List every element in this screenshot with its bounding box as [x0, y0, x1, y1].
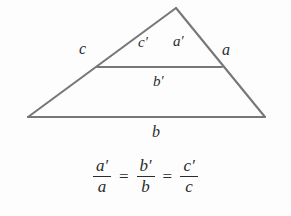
numerator-base: c	[184, 156, 192, 175]
label-side-c-prime: c′	[138, 35, 148, 50]
label-side-b: b	[152, 124, 160, 140]
similar-triangles-figure: c a b c′ a′ b′ a′ a = b′ b = c′ c	[0, 0, 291, 216]
triangle-left-side	[28, 8, 176, 117]
proportionality-equation: a′ a = b′ b = c′ c	[0, 157, 291, 196]
fraction-a-prime-over-a: a′ a	[93, 157, 111, 196]
equals-sign-2: =	[162, 167, 174, 187]
fraction-b-prime-over-b: b′ b	[137, 157, 155, 196]
fraction-numerator: b′	[137, 157, 155, 176]
label-side-b-prime: b′	[153, 74, 164, 89]
fraction-numerator: a′	[93, 157, 111, 176]
numerator-base: b	[140, 156, 149, 175]
fraction-denominator: a	[95, 177, 110, 196]
label-b-prime-base: b	[153, 73, 161, 89]
label-side-a: a	[222, 42, 230, 58]
prime-mark-b: ′	[161, 73, 164, 89]
prime-mark-c: ′	[145, 34, 148, 50]
numerator-prime-mark: ′	[104, 157, 108, 174]
label-a-prime-base: a	[173, 33, 181, 49]
label-side-a-prime: a′	[173, 34, 184, 49]
triangle-right-side	[176, 8, 265, 117]
label-c-prime-base: c	[138, 34, 145, 50]
equals-sign-1: =	[118, 167, 130, 187]
numerator-prime-mark: ′	[191, 157, 195, 174]
label-side-c: c	[79, 41, 86, 57]
fraction-denominator: c	[182, 177, 196, 196]
numerator-prime-mark: ′	[148, 157, 152, 174]
prime-mark-a: ′	[181, 33, 184, 49]
fraction-c-prime-over-c: c′ c	[180, 157, 198, 196]
fraction-numerator: c′	[181, 157, 198, 176]
fraction-denominator: b	[138, 177, 153, 196]
